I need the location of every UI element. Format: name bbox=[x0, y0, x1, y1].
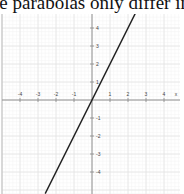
svg-text:2: 2 bbox=[127, 91, 130, 97]
plot-canvas: -4-3-2-11234x4321-1-2-3-4 bbox=[0, 14, 184, 194]
svg-text:2: 2 bbox=[96, 61, 99, 67]
svg-text:-4: -4 bbox=[18, 91, 23, 97]
svg-text:4: 4 bbox=[96, 25, 99, 31]
svg-text:3: 3 bbox=[96, 43, 99, 49]
svg-text:-2: -2 bbox=[96, 133, 101, 139]
svg-text:4: 4 bbox=[163, 91, 166, 97]
svg-text:-3: -3 bbox=[96, 151, 101, 157]
svg-text:-1: -1 bbox=[96, 115, 101, 121]
svg-text:-2: -2 bbox=[54, 91, 59, 97]
svg-text:x: x bbox=[175, 91, 178, 97]
svg-text:1: 1 bbox=[96, 79, 99, 85]
svg-text:-3: -3 bbox=[36, 91, 41, 97]
svg-text:3: 3 bbox=[145, 91, 148, 97]
svg-text:1: 1 bbox=[109, 91, 112, 97]
caption-text: le parabolas only differ in ve bbox=[0, 0, 184, 13]
svg-text:-4: -4 bbox=[96, 169, 101, 175]
minor-gridlines bbox=[2, 14, 180, 194]
graph-plot: -4-3-2-11234x4321-1-2-3-4 bbox=[0, 14, 184, 194]
svg-text:-1: -1 bbox=[72, 91, 77, 97]
